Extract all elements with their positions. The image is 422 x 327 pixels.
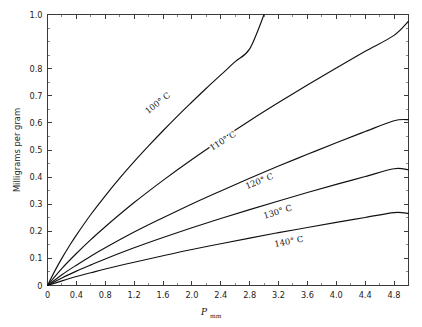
y-tick-label: 0.3 (29, 199, 42, 209)
x-tick-label: 4.8 (388, 290, 401, 300)
figure-background (0, 0, 422, 327)
x-tick-label: 2.0 (185, 290, 198, 300)
y-tick-label: 0.7 (29, 91, 42, 101)
y-tick-label: 0.2 (29, 226, 42, 236)
x-axis-title-text: P (200, 307, 208, 317)
x-tick-label: 3.2 (272, 290, 285, 300)
y-tick-label: 0.1 (29, 253, 42, 263)
x-tick-label: 2.4 (214, 290, 227, 300)
y-axis-title-text: Milligrams per gram (12, 108, 22, 192)
y-axis-title: Milligrams per gram (12, 108, 22, 192)
x-tick-label: 4.0 (330, 290, 343, 300)
chart-figure: 1.00.80.70.60.50.40.30.20.10 00.40.81.21… (0, 0, 422, 327)
y-tick-label: 1.0 (29, 10, 42, 20)
y-tick-label: 0.5 (29, 145, 42, 155)
y-tick-label: 0 (37, 281, 42, 291)
x-tick-label: 1.2 (128, 290, 141, 300)
y-tick-label: 0.6 (29, 118, 42, 128)
y-tick-label: 0.8 (29, 64, 42, 74)
x-tick-label: 0.8 (99, 290, 112, 300)
x-tick-label: 2.8 (243, 290, 256, 300)
x-tick-label: 4.4 (359, 290, 372, 300)
x-tick-label: 0 (45, 290, 50, 300)
x-axis-title-subscript: mm (210, 312, 222, 319)
x-tick-label: 3.6 (301, 290, 314, 300)
x-tick-label: 1.6 (157, 290, 170, 300)
x-tick-label: 0.4 (70, 290, 83, 300)
chart-canvas: 1.00.80.70.60.50.40.30.20.10 00.40.81.21… (0, 0, 422, 327)
y-tick-label: 0.4 (29, 172, 42, 182)
